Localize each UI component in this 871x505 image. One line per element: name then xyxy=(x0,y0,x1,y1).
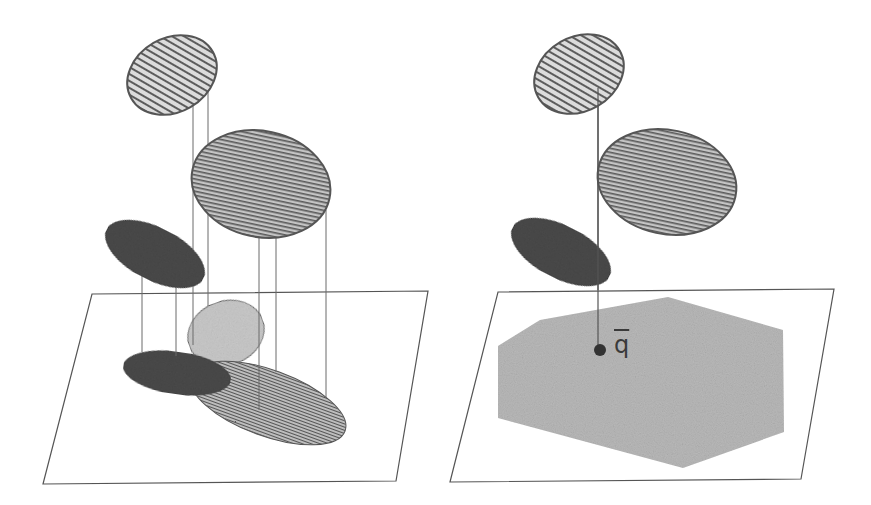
figure-canvas xyxy=(0,0,871,505)
right-dark-ellipsoid xyxy=(501,204,621,299)
q-bar-label: q xyxy=(614,333,629,357)
left-dark-ellipsoid xyxy=(95,206,215,301)
left-top-ellipsoid xyxy=(113,19,231,130)
left-middle-ellipsoid xyxy=(182,118,341,251)
left-panel xyxy=(43,19,428,484)
right-middle-ellipsoid xyxy=(588,117,747,248)
right-panel xyxy=(450,18,834,482)
projected-point-q xyxy=(594,344,606,356)
q-bar-text: q xyxy=(614,331,629,359)
right-top-ellipsoid xyxy=(520,18,638,129)
